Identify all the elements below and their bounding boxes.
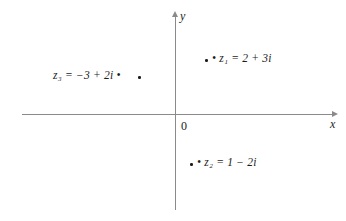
point-marker-z1 [205, 59, 208, 62]
point-marker-z2 [190, 163, 193, 166]
point-label-z2: • z₂ = 1 − 2i [197, 156, 257, 168]
point-marker-z3 [138, 76, 141, 79]
y-axis-label: y [180, 9, 185, 24]
y-axis-arrowhead-icon [172, 11, 178, 17]
point-label-z3: z₃ = −3 + 2i • [53, 69, 121, 81]
x-axis-label: x [330, 117, 335, 132]
argand-diagram-canvas: y x 0 • z₁ = 2 + 3i • z₂ = 1 − 2i z₃ = −… [0, 0, 346, 221]
x-axis-line [22, 114, 334, 115]
y-axis-line [175, 15, 176, 210]
origin-label: 0 [181, 119, 187, 134]
point-label-z1: • z₁ = 2 + 3i [212, 52, 272, 64]
